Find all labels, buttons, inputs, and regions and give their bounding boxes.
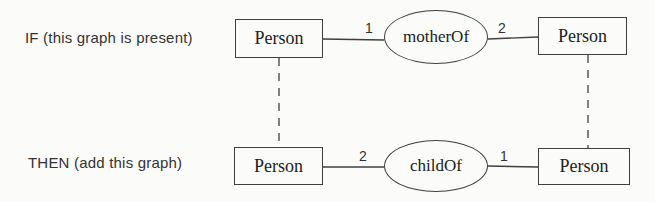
motherof-relation-node: motherOf <box>384 10 488 64</box>
graph-rule-diagram: IF (this graph is present) THEN (add thi… <box>0 0 655 202</box>
if-condition-label: IF (this graph is present) <box>25 29 193 46</box>
person-node-if-left: Person <box>235 19 323 58</box>
person-node-then-right: Person <box>538 148 630 185</box>
person-node-if-right: Person <box>538 17 627 55</box>
then-right-cardinality-label: 1 <box>497 148 511 164</box>
if-right-cardinality-label: 2 <box>495 20 509 36</box>
then-edge-right-line <box>488 166 538 167</box>
then-left-cardinality-label: 2 <box>356 148 370 164</box>
childof-relation-node: childOf <box>384 140 488 192</box>
if-edge-left-line <box>323 39 384 40</box>
if-edge-right-line <box>488 37 538 39</box>
if-left-cardinality-label: 1 <box>362 20 376 36</box>
then-action-label: THEN (add this graph) <box>28 154 182 171</box>
person-node-then-left: Person <box>234 147 323 185</box>
